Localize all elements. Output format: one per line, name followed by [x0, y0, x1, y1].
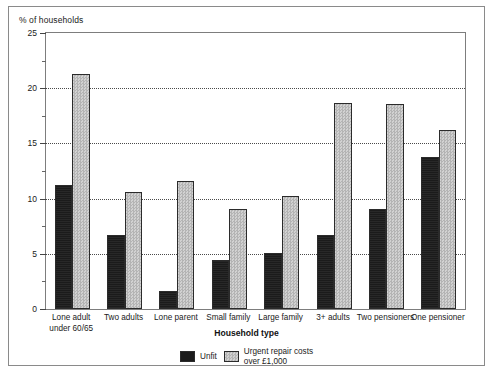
legend-entry: Urgent repair costsover £1,000 [224, 347, 313, 366]
bar-urgent [229, 209, 247, 309]
chart-figure: % of households 0510152025 Lone adultund… [8, 6, 485, 366]
bar-unfit [159, 291, 177, 309]
bar-urgent [177, 181, 195, 309]
y-axis-tick-label: 5 [32, 249, 37, 259]
bar-unfit [264, 253, 282, 309]
bar-urgent [72, 74, 90, 309]
bar-urgent [334, 103, 352, 309]
bar-urgent [386, 104, 404, 309]
y-axis-tick-label: 15 [28, 138, 37, 148]
bar-group [98, 33, 150, 309]
bar-urgent [125, 192, 143, 309]
bar-unfit [421, 157, 439, 309]
bar-unfit [212, 260, 230, 309]
y-axis-tick [40, 309, 46, 310]
y-axis-tick-label: 10 [28, 194, 37, 204]
bar-urgent [282, 196, 300, 309]
bar-unfit [369, 209, 387, 309]
bar-unfit [317, 235, 335, 309]
bar-unfit [107, 235, 125, 309]
y-axis-unit-caption: % of households [19, 15, 83, 25]
bar-urgent [439, 130, 457, 309]
legend-swatch-urgent [224, 351, 239, 362]
bar-group [203, 33, 255, 309]
plot-area: 0510152025 [45, 32, 466, 310]
bar-group [151, 33, 203, 309]
bar-group [46, 33, 98, 309]
x-axis-category-label: One pensioner [393, 313, 482, 324]
bar-group [413, 33, 465, 309]
legend-entry: Unfit [180, 351, 217, 362]
bar-group [360, 33, 412, 309]
y-axis-tick-label: 20 [28, 83, 37, 93]
legend-swatch-unfit [180, 351, 195, 362]
legend-label: Urgent repair costsover £1,000 [244, 347, 313, 366]
x-axis-title: Household type [9, 328, 484, 338]
bar-group [256, 33, 308, 309]
bar-unfit [55, 185, 73, 309]
legend-label: Unfit [200, 352, 217, 362]
chart-legend: UnfitUrgent repair costsover £1,000 [9, 347, 484, 366]
bar-group [308, 33, 360, 309]
y-axis-tick-label: 25 [28, 28, 37, 38]
